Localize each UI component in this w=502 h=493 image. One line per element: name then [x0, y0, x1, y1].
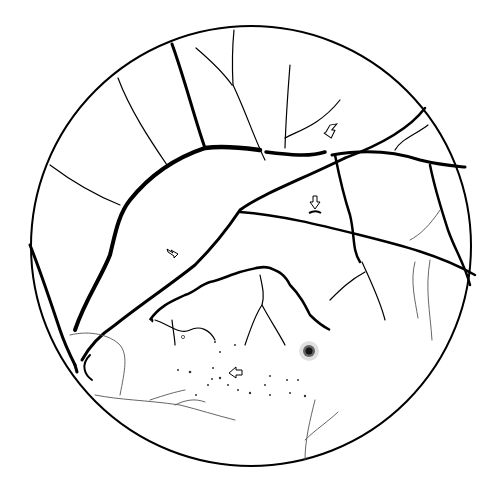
scattered-dots — [177, 335, 306, 397]
lesion-border — [150, 267, 330, 330]
arrow-icon — [167, 124, 339, 378]
fundus-drawing — [0, 0, 502, 493]
faint-vessels — [70, 210, 440, 460]
major-vessels — [30, 44, 475, 380]
pigmented-spot — [299, 341, 319, 361]
lesion-border-left — [150, 319, 152, 322]
small-mark — [309, 212, 321, 214]
minor-vessels — [50, 30, 428, 345]
